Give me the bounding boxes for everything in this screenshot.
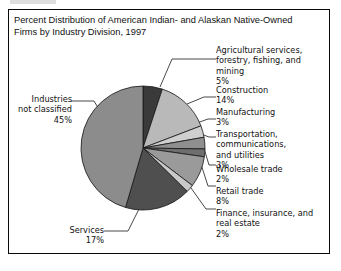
leader-agricultural <box>160 59 216 87</box>
leader-construction <box>187 97 216 104</box>
callout-finance: Finance, insurance, and real estate 2% <box>216 208 326 239</box>
page-top-margin <box>0 0 341 7</box>
callout-retail: Retail trade 8% <box>216 186 320 207</box>
callout-construction: Construction 14% <box>216 85 320 106</box>
scan-artifact <box>10 0 56 4</box>
callout-agricultural: Agricultural services, forestry, fishing… <box>216 45 320 86</box>
leader-services <box>104 209 139 231</box>
callout-industries: Industries not classified 45% <box>8 94 72 125</box>
callout-services: Services 17% <box>20 225 104 246</box>
callout-manufacturing: Manufacturing 3% <box>216 107 320 128</box>
callout-wholesale: Wholesale trade 2% <box>216 164 320 185</box>
